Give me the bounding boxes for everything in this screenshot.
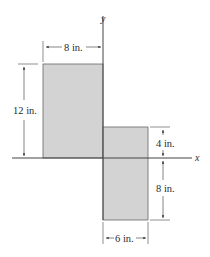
y-axis-label: y bbox=[100, 13, 106, 24]
dim-label-left-height: 12 in. bbox=[13, 105, 37, 116]
dim-label-top-width: 8 in. bbox=[64, 42, 83, 53]
lower-right-rectangle bbox=[103, 127, 148, 220]
dim-label-right-lower-height: 8 in. bbox=[156, 183, 175, 194]
composite-area-diagram: y x 8 in. 12 in. 4 in. 8 in. 6 in. bbox=[0, 0, 210, 257]
dim-label-bottom-width: 6 in. bbox=[115, 233, 134, 244]
upper-left-rectangle bbox=[43, 64, 103, 158]
x-axis-label: x bbox=[194, 152, 200, 163]
dim-label-right-upper-height: 4 in. bbox=[156, 138, 175, 149]
